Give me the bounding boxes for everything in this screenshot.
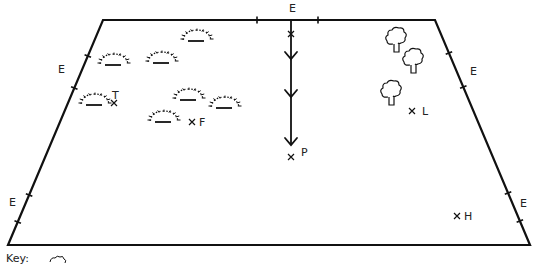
entrance-labels: EEEEE <box>9 2 527 210</box>
key-bush-icon <box>50 256 66 263</box>
bush-icon <box>98 53 131 65</box>
point-p: P <box>288 146 308 160</box>
entrance-label-left-upper: E <box>58 63 65 76</box>
cross-marker-icon <box>288 154 294 160</box>
bush-icon <box>173 88 206 100</box>
bush-icon <box>146 51 179 63</box>
field-diagram: TFPLH EEEEE Key: <box>0 0 533 264</box>
point-f: F <box>189 116 205 129</box>
point-label: L <box>422 105 429 118</box>
entrance-label-right-upper: E <box>470 65 477 78</box>
bush-icon <box>79 93 112 105</box>
point-label: P <box>301 146 308 159</box>
tree-icon <box>403 48 424 73</box>
point-l: L <box>409 105 429 118</box>
tree-icon <box>381 80 402 105</box>
key: Key: <box>6 252 66 264</box>
entrance-label-right-lower: E <box>520 197 527 210</box>
key-label: Key: <box>6 252 29 264</box>
tree-icon <box>386 27 407 52</box>
point-label: F <box>199 116 205 129</box>
path-with-arrows <box>285 20 297 145</box>
boundary-outline <box>8 20 530 245</box>
bush-icon <box>209 96 242 108</box>
entrance-label-top: E <box>289 2 296 15</box>
bush-icon <box>181 29 214 41</box>
point-label: H <box>464 210 472 223</box>
point-label: T <box>111 89 119 102</box>
bushes <box>79 29 242 122</box>
bush-icon <box>148 110 181 122</box>
field-boundary <box>8 20 530 245</box>
point-h: H <box>454 210 472 223</box>
cross-marker-icon <box>189 119 195 125</box>
point-t: T <box>111 89 119 106</box>
cross-marker-icon <box>409 108 415 114</box>
cross-marker-icon <box>454 213 460 219</box>
trees <box>381 27 424 105</box>
entrance-label-left-lower: E <box>9 196 16 209</box>
